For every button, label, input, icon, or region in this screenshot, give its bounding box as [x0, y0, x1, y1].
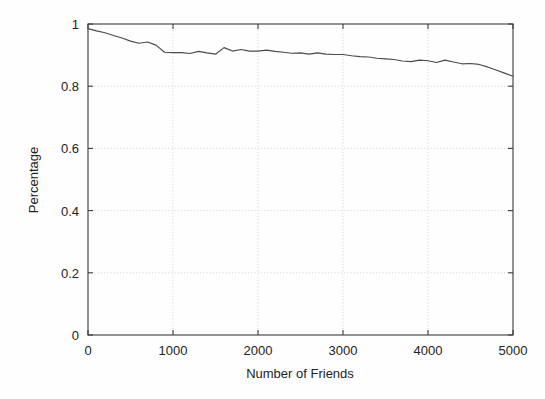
- y-tick-label: 0.6: [61, 141, 79, 156]
- line-chart: 010002000300040005000 00.20.40.60.81 Num…: [0, 0, 545, 399]
- y-tick-label: 0: [72, 328, 79, 343]
- y-tick-label: 0.8: [61, 79, 79, 94]
- y-tick-label: 0.4: [61, 204, 79, 219]
- x-tick-label: 5000: [499, 343, 528, 358]
- plot-frame: [88, 24, 513, 335]
- x-tick-labels: 010002000300040005000: [84, 343, 527, 358]
- x-tick-label: 2000: [244, 343, 273, 358]
- x-tick-label: 0: [84, 343, 91, 358]
- tick-marks: [88, 24, 513, 335]
- x-tick-label: 3000: [329, 343, 358, 358]
- gridlines: [88, 24, 513, 335]
- y-tick-label: 1: [72, 17, 79, 32]
- y-axis-title: Percentage: [26, 147, 41, 214]
- x-axis-title: Number of Friends: [246, 366, 354, 381]
- chart-figure: 010002000300040005000 00.20.40.60.81 Num…: [0, 0, 545, 399]
- y-tick-labels: 00.20.40.60.81: [61, 17, 79, 343]
- y-tick-label: 0.2: [61, 266, 79, 281]
- x-tick-label: 1000: [159, 343, 188, 358]
- data-series-line: [88, 29, 513, 77]
- x-tick-label: 4000: [414, 343, 443, 358]
